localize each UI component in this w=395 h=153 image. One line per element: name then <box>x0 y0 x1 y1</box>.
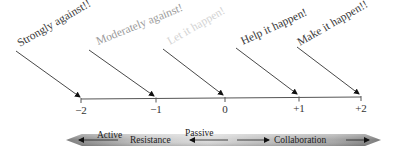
tick-label-minus-1: −1 <box>150 103 162 115</box>
label-strongly-against: Strongly against!! <box>15 0 93 50</box>
tick-label-plus-1: +1 <box>293 102 305 114</box>
resistance-collaboration-spectrum: Active Resistance Passive Collaboration <box>66 128 381 146</box>
arrow-icon <box>297 47 359 94</box>
label-make-it-happen: Make it happen!! <box>295 0 370 49</box>
attitude-scale-diagram: −2 −1 0 +1 +2 Strongly against!! Moderat… <box>0 0 395 153</box>
scale-axis <box>81 96 361 103</box>
tick-labels: −2 −1 0 +1 +2 <box>75 102 367 116</box>
label-resistance: Resistance <box>130 135 171 145</box>
arrow-icon <box>236 48 297 94</box>
attitude-arrows <box>16 47 359 97</box>
arrow-icon <box>89 50 154 96</box>
label-collaboration: Collaboration <box>274 135 326 145</box>
arrow-icon <box>16 51 80 97</box>
attitude-labels: Strongly against!! Moderately against! L… <box>15 0 370 50</box>
tick-label-minus-2: −2 <box>75 104 87 116</box>
label-passive: Passive <box>185 128 214 138</box>
tick-label-0: 0 <box>222 103 228 115</box>
arrow-icon <box>163 49 223 95</box>
label-active: Active <box>97 130 122 140</box>
tick-label-plus-2: +2 <box>355 102 367 114</box>
axis-line <box>81 97 361 99</box>
